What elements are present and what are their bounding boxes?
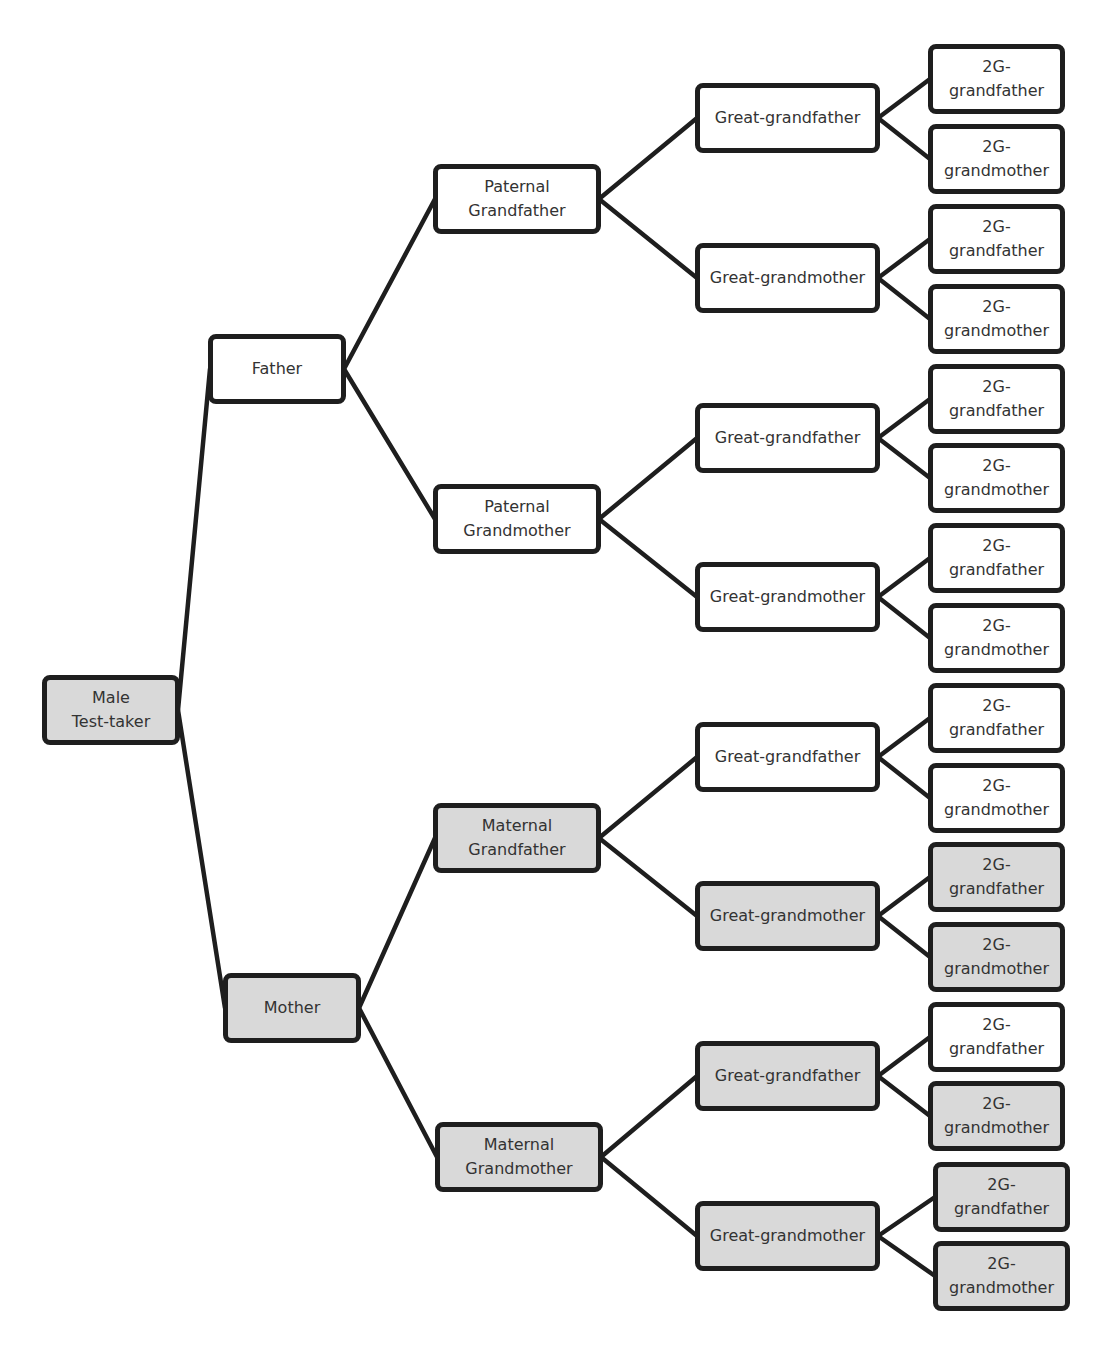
tree-node-g2_4: 2G- grandmother [928, 284, 1065, 354]
tree-node-g2_10: 2G- grandmother [928, 763, 1065, 833]
tree-node-mother: Mother [223, 973, 361, 1043]
connector-gg6-to-g2_11 [878, 877, 930, 916]
figure-caption-truncated [0, 1322, 1112, 1346]
connector-mother-to-mgm [359, 1008, 437, 1157]
tree-node-g2_8: 2G- grandmother [928, 603, 1065, 673]
connector-mgf-to-gg6 [599, 838, 697, 916]
connector-gg1-to-g2_2 [878, 118, 930, 159]
connector-gg1-to-g2_1 [878, 79, 930, 118]
tree-node-g2_12: 2G- grandmother [928, 922, 1065, 992]
tree-node-mgm: Maternal Grandmother [435, 1122, 603, 1192]
tree-node-g2_14: 2G- grandmother [928, 1081, 1065, 1151]
connector-pgf-to-gg1 [599, 118, 697, 199]
connector-gg4-to-g2_8 [878, 597, 930, 638]
connector-gg7-to-g2_13 [878, 1037, 930, 1076]
tree-node-gg8: Great-grandmother [695, 1201, 880, 1271]
tree-node-mgf: Maternal Grandfather [433, 803, 601, 873]
connector-mgf-to-gg5 [599, 757, 697, 838]
connector-gg5-to-g2_9 [878, 718, 930, 757]
connector-pgm-to-gg4 [599, 519, 697, 597]
connector-father-to-pgm [344, 369, 435, 519]
connector-gg8-to-g2_15 [878, 1197, 935, 1236]
connector-father-to-pgf [344, 199, 435, 369]
tree-node-root: Male Test-taker [42, 675, 180, 745]
connector-gg4-to-g2_7 [878, 558, 930, 597]
connector-gg6-to-g2_12 [878, 916, 930, 957]
connector-gg5-to-g2_10 [878, 757, 930, 798]
connector-gg3-to-g2_6 [878, 438, 930, 478]
connector-gg2-to-g2_4 [878, 278, 930, 319]
connector-gg2-to-g2_3 [878, 239, 930, 278]
tree-node-gg7: Great-grandfather [695, 1041, 880, 1111]
connector-pgf-to-gg2 [599, 199, 697, 278]
pedigree-diagram: Male Test-takerFatherMotherPaternal Gran… [0, 0, 1112, 1346]
tree-node-g2_2: 2G- grandmother [928, 124, 1065, 194]
tree-node-g2_3: 2G- grandfather [928, 204, 1065, 274]
tree-node-father: Father [208, 334, 346, 404]
connector-gg7-to-g2_14 [878, 1076, 930, 1116]
tree-node-gg6: Great-grandmother [695, 881, 880, 951]
connector-mother-to-mgf [359, 838, 435, 1008]
tree-node-g2_6: 2G- grandmother [928, 443, 1065, 513]
tree-node-gg1: Great-grandfather [695, 83, 880, 153]
connector-gg8-to-g2_16 [878, 1236, 935, 1276]
tree-node-gg4: Great-grandmother [695, 562, 880, 632]
tree-node-gg5: Great-grandfather [695, 722, 880, 792]
tree-node-g2_16: 2G- grandmother [933, 1241, 1070, 1311]
tree-node-g2_15: 2G- grandfather [933, 1162, 1070, 1232]
tree-node-g2_13: 2G- grandfather [928, 1002, 1065, 1072]
tree-node-g2_11: 2G- grandfather [928, 842, 1065, 912]
tree-node-g2_9: 2G- grandfather [928, 683, 1065, 753]
tree-node-pgm: Paternal Grandmother [433, 484, 601, 554]
tree-node-pgf: Paternal Grandfather [433, 164, 601, 234]
connector-mgm-to-gg7 [601, 1076, 697, 1157]
connector-gg3-to-g2_5 [878, 399, 930, 438]
connector-root-to-father [178, 369, 210, 710]
tree-node-gg2: Great-grandmother [695, 243, 880, 313]
connector-pgm-to-gg3 [599, 438, 697, 519]
tree-node-g2_7: 2G- grandfather [928, 523, 1065, 593]
tree-node-g2_5: 2G- grandfather [928, 364, 1065, 434]
connector-root-to-mother [178, 710, 225, 1008]
connector-mgm-to-gg8 [601, 1157, 697, 1236]
tree-node-gg3: Great-grandfather [695, 403, 880, 473]
tree-node-g2_1: 2G- grandfather [928, 44, 1065, 114]
